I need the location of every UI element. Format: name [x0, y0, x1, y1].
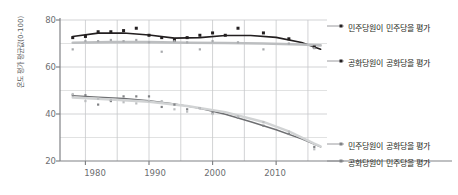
data-point-marker: [288, 42, 290, 44]
data-point-marker: [237, 115, 239, 117]
data-point-marker: [161, 106, 163, 108]
data-point-marker: [288, 131, 290, 133]
legend-item-rep-rates-dem: 공화당원이 민주당을 평가: [348, 157, 430, 168]
data-point-marker: [173, 40, 175, 42]
data-point-marker: [262, 125, 264, 127]
legend-label: 공화당원이 공화당을 평가: [348, 59, 430, 68]
data-point-marker: [262, 121, 264, 123]
data-point-marker: [287, 37, 290, 40]
data-point-marker: [161, 51, 163, 53]
data-point-marker: [97, 104, 99, 106]
data-point-marker: [84, 94, 86, 96]
data-point-marker: [135, 102, 137, 104]
legend-item-dem-rates-rep: 민주당원이 공화당을 평가: [348, 140, 430, 151]
data-point-marker: [148, 41, 150, 43]
data-point-marker: [122, 95, 124, 97]
data-point-marker: [186, 41, 188, 43]
data-point-marker: [71, 36, 74, 39]
data-point-marker: [224, 34, 227, 37]
data-point-marker: [186, 111, 188, 113]
data-point-marker: [148, 95, 150, 97]
data-point-marker: [237, 27, 240, 30]
data-point-marker: [186, 108, 188, 110]
data-point-marker: [173, 104, 175, 106]
data-point-marker: [186, 36, 189, 39]
data-point-marker: [211, 113, 213, 115]
data-point-marker: [97, 98, 99, 100]
data-point-marker: [313, 148, 315, 150]
legend-marker: [340, 25, 343, 28]
data-point-marker: [122, 101, 124, 103]
data-point-marker: [148, 100, 150, 102]
data-point-marker: [135, 95, 137, 97]
data-point-marker: [313, 146, 315, 148]
legend-marker: [340, 143, 343, 146]
data-point-marker: [135, 39, 137, 41]
data-point-marker: [72, 93, 74, 95]
data-point-marker: [262, 31, 265, 34]
chart-container: 온도 평가 평균값(0-100) 80 60 40 20 1980 1990 2…: [0, 0, 458, 195]
trend-line: [73, 98, 321, 147]
data-point-marker: [122, 40, 124, 42]
legend-item-rep-rates-rep: 공화당원이 공화당을 평가: [348, 57, 430, 68]
data-point-marker: [199, 107, 201, 109]
data-point-marker: [110, 99, 112, 101]
legend-marker: [340, 60, 343, 63]
trend-line: [73, 96, 321, 147]
data-point-marker: [97, 40, 99, 42]
data-point-marker: [84, 35, 87, 38]
data-point-marker: [122, 29, 125, 32]
data-point-marker: [72, 48, 74, 50]
data-point-marker: [173, 108, 175, 110]
data-point-marker: [237, 41, 239, 43]
data-point-marker: [211, 40, 213, 42]
data-point-marker: [135, 27, 138, 30]
data-point-marker: [84, 100, 86, 102]
data-point-marker: [84, 40, 86, 42]
data-point-marker: [161, 100, 163, 102]
data-point-marker: [198, 34, 201, 37]
legend-label: 공화당원이 민주당을 평가: [348, 159, 430, 168]
legend-label: 민주당원이 공화당을 평가: [348, 142, 430, 151]
data-point-marker: [199, 48, 201, 50]
data-point-marker: [110, 39, 112, 41]
legend-item-dem-rates-dem: 민주당원이 민주당을 평가: [348, 22, 430, 33]
data-point-marker: [262, 48, 264, 50]
data-point-marker: [148, 34, 151, 37]
data-point-marker: [109, 30, 112, 33]
data-point-marker: [313, 47, 315, 49]
legend-marker: [340, 160, 343, 163]
data-point-marker: [160, 36, 163, 39]
legend-label: 민주당원이 민주당을 평가: [348, 24, 430, 33]
data-point-marker: [288, 133, 290, 135]
data-point-marker: [211, 31, 214, 34]
data-point-marker: [97, 30, 100, 33]
